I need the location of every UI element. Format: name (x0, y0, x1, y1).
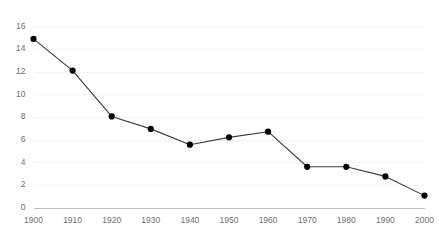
data-point-marker (70, 68, 76, 74)
line-chart: 0246810121416 19001910192019301940195019… (0, 0, 439, 240)
data-point-marker (304, 164, 310, 170)
y-axis-tick-label: 4 (21, 157, 26, 167)
y-axis-tick-label: 12 (16, 66, 26, 76)
data-point-marker (421, 193, 427, 199)
data-point-marker (187, 142, 193, 148)
y-axis-tick-label: 14 (16, 43, 26, 53)
x-axis-tick-label: 1950 (220, 215, 239, 225)
y-axis-tick-label: 2 (21, 179, 26, 189)
x-axis-tick-label: 1940 (180, 215, 199, 225)
x-axis-tick-label: 1980 (337, 215, 356, 225)
data-point-marker (148, 126, 154, 132)
x-axis-tick-label: 1990 (376, 215, 395, 225)
data-point-marker (226, 134, 232, 140)
x-axis-tick-label: 1970 (298, 215, 317, 225)
y-axis-tick-label: 0 (21, 202, 26, 212)
data-point-marker (109, 113, 115, 119)
x-axis-tick-label: 1930 (141, 215, 160, 225)
y-axis-tick-label: 8 (21, 111, 26, 121)
chart-plot-svg: 0246810121416 19001910192019301940195019… (0, 0, 439, 240)
x-axis-tick-label: 1960 (259, 215, 278, 225)
x-axis-tick-label: 2000 (415, 215, 434, 225)
x-axis-tick-labels: 1900191019201930194019501960197019801990… (24, 215, 434, 225)
data-point-marker (30, 36, 36, 42)
y-axis-tick-label: 6 (21, 134, 26, 144)
x-axis-tick-label: 1920 (102, 215, 121, 225)
x-axis-tick-label: 1900 (24, 215, 43, 225)
gridlines-group (34, 28, 425, 186)
x-axis-tick-label: 1910 (63, 215, 82, 225)
data-point-marker (343, 164, 349, 170)
y-axis-tick-labels: 0246810121416 (16, 21, 26, 212)
data-point-marker (265, 129, 271, 135)
y-axis-tick-label: 16 (16, 21, 26, 31)
y-axis-tick-label: 10 (16, 89, 26, 99)
data-point-marker (382, 173, 388, 179)
